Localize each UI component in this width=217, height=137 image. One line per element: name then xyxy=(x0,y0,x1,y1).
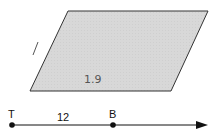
handwritten-label: 1.9 xyxy=(84,73,102,86)
segment-length-label: 12 xyxy=(57,111,69,123)
parallelogram xyxy=(30,11,208,91)
arrowhead-icon xyxy=(196,121,208,129)
point-b-label: B xyxy=(109,108,116,120)
side-tick-mark xyxy=(33,42,38,55)
diagram-canvas: 1.9 T B 12 xyxy=(0,0,217,137)
point-t xyxy=(9,122,15,128)
point-t-label: T xyxy=(8,108,15,120)
point-b xyxy=(110,122,116,128)
